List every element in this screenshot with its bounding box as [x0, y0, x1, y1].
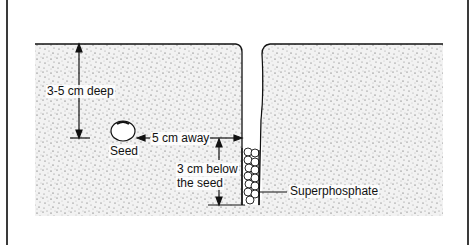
soil-cross-section: [0, 0, 472, 245]
below-label-line2: the seed: [176, 177, 224, 190]
below-label-line1: 3 cm below: [176, 163, 239, 176]
superphosphate-label: Superphosphate: [289, 185, 379, 198]
depth-label: 3-5 cm deep: [46, 85, 115, 98]
seed-label: Seed: [109, 145, 139, 158]
seed-icon: [111, 121, 135, 141]
distance-label: 5 cm away: [151, 132, 210, 145]
